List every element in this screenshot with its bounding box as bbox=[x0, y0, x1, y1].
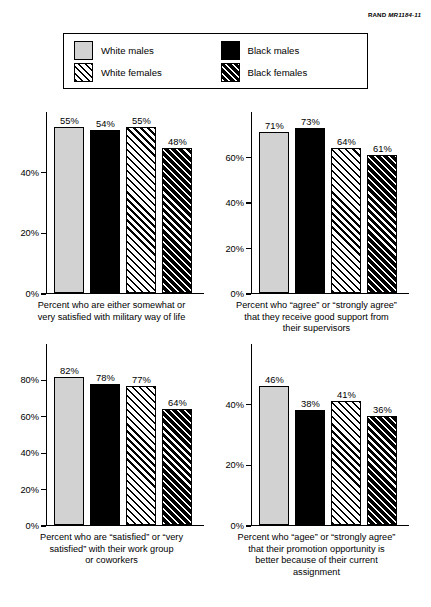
bar-value-label: 82% bbox=[60, 365, 79, 376]
bar-value-label: 48% bbox=[168, 136, 187, 147]
bar-white-males: 71% bbox=[259, 132, 289, 292]
chart-panel-support-from-supervisors: 0%20%40%60% 71%73%64%61% Percent who “ag… bbox=[215, 104, 418, 340]
bar-series: 46%38%41%36% bbox=[252, 344, 409, 525]
bar-series: 82%78%77%64% bbox=[47, 344, 204, 525]
chart-caption: Percent who are “satisfied” or “verysati… bbox=[10, 532, 213, 567]
y-axis-tick bbox=[41, 293, 46, 294]
legend-swatch-white-males-icon bbox=[74, 41, 93, 60]
legend-swatch-black-males-icon bbox=[221, 41, 240, 60]
legend-item-black-females: Black females bbox=[221, 61, 368, 83]
y-axis-tick bbox=[246, 157, 251, 158]
y-axis-tick bbox=[246, 248, 251, 249]
bar-slot: 46% bbox=[259, 344, 289, 525]
bar-slot: 73% bbox=[295, 112, 325, 293]
caption-line: that they receive good support from bbox=[215, 312, 418, 324]
bar-slot: 41% bbox=[331, 344, 361, 525]
y-axis-tick-label: 0% bbox=[231, 289, 244, 299]
bar-white-males: 82% bbox=[54, 377, 84, 525]
y-axis-tick bbox=[246, 465, 251, 466]
y-axis-tick bbox=[41, 380, 46, 381]
bar-slot: 36% bbox=[367, 344, 397, 525]
bar-white-males: 46% bbox=[259, 386, 289, 524]
y-axis-tick bbox=[246, 293, 251, 294]
bar-slot: 48% bbox=[162, 112, 192, 293]
plot-area: 0%20%40% 55%54%55%48% bbox=[46, 112, 204, 294]
bar-value-label: 71% bbox=[265, 120, 284, 131]
bar-value-label: 55% bbox=[132, 115, 151, 126]
bar-value-label: 61% bbox=[373, 143, 392, 154]
y-axis-tick bbox=[41, 489, 46, 490]
bar-black-males: 78% bbox=[90, 384, 120, 525]
legend: White males Black males White females Bl… bbox=[63, 33, 368, 89]
caption-line: or coworkers bbox=[10, 555, 213, 567]
bar-slot: 64% bbox=[331, 112, 361, 293]
bar-black-females: 36% bbox=[367, 416, 397, 524]
caption-line: very satisfied with military way of life bbox=[10, 312, 213, 324]
bar-series: 55%54%55%48% bbox=[47, 112, 204, 293]
bar-value-label: 41% bbox=[337, 389, 356, 400]
chart-panel-satisfaction-work-group-coworkers: 0%20%40%60%80% 82%78%77%64% Percent who … bbox=[10, 336, 213, 572]
bar-value-label: 55% bbox=[60, 115, 79, 126]
y-axis-tick-label: 40% bbox=[225, 198, 244, 208]
bar-black-females: 64% bbox=[162, 409, 192, 525]
y-axis-tick bbox=[41, 172, 46, 173]
x-axis-line bbox=[251, 293, 409, 294]
bar-value-label: 64% bbox=[337, 136, 356, 147]
legend-label-white-males: White males bbox=[101, 45, 154, 56]
y-axis-tick-label: 0% bbox=[26, 289, 39, 299]
bar-slot: 82% bbox=[54, 344, 84, 525]
caption-line: Percent who “agee” or “strongly agree” bbox=[215, 532, 418, 544]
plot-area: 0%20%40%60% 71%73%64%61% bbox=[251, 112, 409, 294]
legend-swatch-black-females-icon bbox=[221, 63, 240, 82]
y-axis-tick-label: 60% bbox=[225, 153, 244, 163]
bar-value-label: 78% bbox=[96, 372, 115, 383]
bar-slot: 54% bbox=[90, 112, 120, 293]
caption-line: better because of their current bbox=[215, 555, 418, 567]
y-axis-tick bbox=[246, 525, 251, 526]
bar-value-label: 77% bbox=[132, 374, 151, 385]
legend-grid: White males Black males White females Bl… bbox=[64, 34, 367, 88]
y-axis-tick-label: 20% bbox=[20, 485, 39, 495]
x-axis-line bbox=[46, 293, 204, 294]
source-credit: RAND MR1184-11 bbox=[368, 11, 421, 18]
legend-item-white-females: White females bbox=[74, 61, 221, 83]
bar-slot: 55% bbox=[54, 112, 84, 293]
bar-series: 71%73%64%61% bbox=[252, 112, 409, 293]
x-axis-line bbox=[46, 525, 204, 526]
bar-black-males: 73% bbox=[295, 128, 325, 293]
chart-caption: Percent who “agree” or “strongly agree”t… bbox=[215, 300, 418, 335]
bar-white-females: 41% bbox=[331, 401, 361, 524]
plot-area: 0%20%40% 46%38%41%36% bbox=[251, 344, 409, 526]
bar-slot: 38% bbox=[295, 344, 325, 525]
caption-line: Percent who “agree” or “strongly agree” bbox=[215, 300, 418, 312]
caption-line: Percent who are “satisfied” or “very bbox=[10, 532, 213, 544]
bar-value-label: 64% bbox=[168, 397, 187, 408]
bar-slot: 61% bbox=[367, 112, 397, 293]
chart-caption: Percent who “agee” or “strongly agree”th… bbox=[215, 532, 418, 578]
caption-line: satisfied” with their work group bbox=[10, 544, 213, 556]
chart-caption: Percent who are either somewhat orvery s… bbox=[10, 300, 213, 323]
y-axis-tick-label: 80% bbox=[20, 375, 39, 385]
bar-value-label: 36% bbox=[373, 404, 392, 415]
bar-slot: 77% bbox=[126, 344, 156, 525]
y-axis-tick-label: 60% bbox=[20, 412, 39, 422]
bar-slot: 78% bbox=[90, 344, 120, 525]
y-axis-tick-label: 20% bbox=[225, 244, 244, 254]
y-axis-tick bbox=[246, 202, 251, 203]
legend-label-white-females: White females bbox=[101, 67, 162, 78]
bar-value-label: 54% bbox=[96, 118, 115, 129]
bar-slot: 55% bbox=[126, 112, 156, 293]
bar-value-label: 73% bbox=[301, 116, 320, 127]
plot-area: 0%20%40%60%80% 82%78%77%64% bbox=[46, 344, 204, 526]
y-axis-tick-label: 20% bbox=[225, 460, 244, 470]
caption-line: their supervisors bbox=[215, 323, 418, 335]
caption-line: Percent who are either somewhat or bbox=[10, 300, 213, 312]
source-credit-code: MR1184-11 bbox=[388, 11, 421, 18]
y-axis-tick-label: 40% bbox=[20, 168, 39, 178]
y-axis-tick-label: 20% bbox=[20, 228, 39, 238]
bar-black-females: 61% bbox=[367, 155, 397, 293]
legend-swatch-white-females-icon bbox=[74, 63, 93, 82]
caption-line: that their promotion opportunity is bbox=[215, 544, 418, 556]
y-axis-tick bbox=[41, 416, 46, 417]
y-axis-tick bbox=[41, 525, 46, 526]
